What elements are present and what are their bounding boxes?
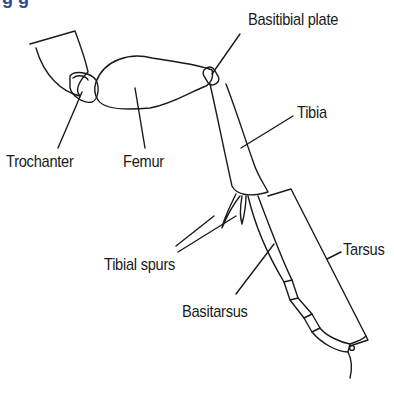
label-basitarsus: Basitarsus (182, 302, 248, 322)
tibia-shape (210, 84, 268, 195)
leader-femur (135, 88, 145, 148)
label-femur: Femur (123, 152, 164, 172)
label-tibia: Tibia (297, 103, 327, 123)
insect-leg-diagram: g g Basit (0, 0, 394, 402)
tibial-spur-2 (241, 196, 247, 224)
tarsus-bracket (268, 189, 368, 346)
label-basitibial-plate: Basitibial plate (248, 10, 338, 30)
leader-basitarsus (236, 244, 274, 294)
leader-trochanter (58, 92, 82, 148)
leader-basitibial (212, 34, 240, 74)
label-trochanter: Trochanter (6, 152, 74, 172)
label-tarsus: Tarsus (343, 240, 385, 260)
leader-tibia (241, 116, 293, 148)
leader-tarsus (327, 252, 341, 259)
coxa (30, 31, 88, 96)
label-tibial-spurs: Tibial spurs (104, 255, 175, 275)
leg-drawing (0, 0, 394, 402)
femur-shape (95, 56, 213, 109)
basitibial-plate-shape (201, 65, 220, 87)
